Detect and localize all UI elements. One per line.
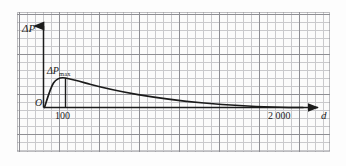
peak-value-label: ΔPmax [47,66,71,78]
chart-plot-area [0,0,346,166]
xtick-label-100: 100 [55,111,70,121]
x-axis-label: d [321,110,327,121]
chart-figure: ΔP ΔPmax O 100 2 000 d [0,0,346,166]
xtick-label-2000: 2 000 [268,111,291,121]
delta-p-curve [45,78,304,108]
peak-value-subscript: max [59,70,71,77]
peak-value-main: ΔP [47,65,59,76]
origin-label: O [35,98,42,108]
y-axis-label: ΔP [22,23,35,34]
